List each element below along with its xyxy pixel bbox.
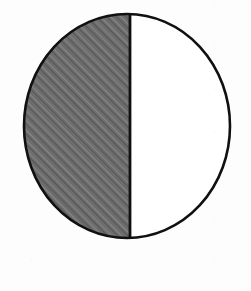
fraction-circle-svg: Circle divided into two equal parts with… [0, 0, 251, 291]
fraction-circle-diagram: Circle divided into two equal parts with… [0, 0, 251, 291]
